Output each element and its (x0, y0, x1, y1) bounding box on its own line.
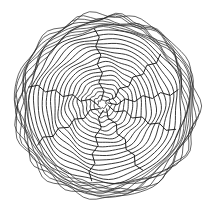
tree-stump-illustration (0, 0, 211, 209)
